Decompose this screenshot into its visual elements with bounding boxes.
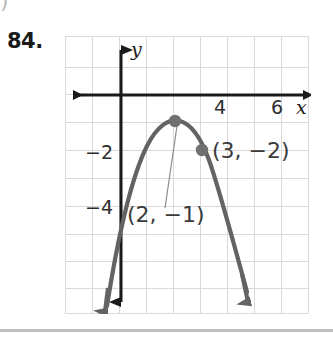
- parabola-left-arrow: [105, 288, 108, 312]
- y-tick-label-neg2: −2: [85, 141, 113, 163]
- point-label-3-neg2: (3, −2): [212, 138, 290, 163]
- point-label-2-neg1: (2, −1): [127, 202, 205, 227]
- parabola-right-arrow: [242, 274, 248, 302]
- x-tick-label-6: 6: [271, 96, 283, 118]
- vertex-point-marker: [169, 115, 181, 127]
- graph-svg: y x 4 6 −2 −4 (3, −2) (2, −1): [65, 36, 311, 314]
- problem-number-label: 84.: [7, 29, 43, 53]
- coordinate-graph-figure: y x 4 6 −2 −4 (3, −2) (2, −1): [65, 36, 311, 314]
- stray-partial-glyph: ): [0, 0, 9, 13]
- y-axis-name-label: y: [130, 38, 142, 60]
- page-divider: [0, 329, 333, 332]
- vertex-leader-line: [165, 126, 177, 208]
- x-tick-label-4: 4: [214, 96, 226, 118]
- curve-point-marker: [196, 144, 208, 156]
- x-axis-name-label: x: [296, 96, 307, 118]
- grid-lines: [66, 37, 309, 314]
- y-tick-label-neg4: −4: [85, 196, 113, 218]
